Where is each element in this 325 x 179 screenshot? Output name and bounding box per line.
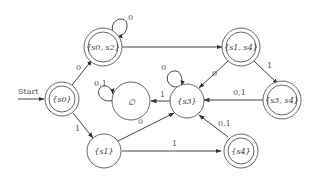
state-label: {s0} [52,95,71,104]
edge-label: 0,1 [233,88,246,97]
state-s3s4: {s3, s4} [263,81,301,119]
edge-label: 0 [212,69,217,78]
edge-s1s4-s3s4 [254,61,278,84]
state-s0: {s0} [45,82,79,116]
state-empty: ∅ [112,82,150,120]
state-s0s2: {s0, s2} [84,28,122,66]
edge-label: 0,1 [218,119,231,128]
loop-empty [98,86,114,101]
state-label: {s1, s4} [224,43,258,52]
edge-label: 0 [76,63,81,72]
edge-label: 1 [267,61,272,70]
edge-label: 0 [161,63,166,72]
edge-label: 1 [172,139,177,148]
state-label: {s3, s4} [265,96,299,105]
state-label: ∅ [128,98,136,107]
loop-s3 [167,71,182,87]
edge-label: 1 [160,90,165,99]
edge-label: 1 [75,124,80,133]
state-s4: {s4} [224,134,258,168]
state-label: {s4} [231,147,250,156]
state-s1s4: {s1, s4} [222,28,260,66]
edge-label: 0,1 [94,79,107,88]
start-arrow: Start [18,87,44,99]
state-label: {s3} [177,97,196,106]
edge-label: 0 [128,13,133,22]
state-label: {s1} [94,147,113,156]
state-s1: {s1} [87,134,121,168]
state-diagram: Start 0 1 0 0 1 0,1 0 1 0,1 0 [0,0,325,179]
edge-s0-s0s2 [72,60,92,85]
start-label: Start [18,87,39,96]
state-label: {s0, s2} [86,43,120,52]
state-s3: {s3} [170,84,204,118]
